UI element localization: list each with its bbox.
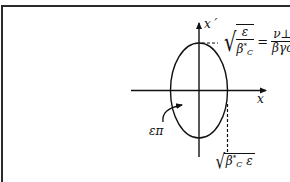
equals-sign: = (257, 35, 268, 48)
sqrt-radicand: β*C ε (224, 153, 255, 169)
beta-subscript: C (236, 160, 242, 169)
max-angle-formula: √ ε β*C = ν⊥ βγc (222, 24, 290, 59)
rhs-denominator: βγc (271, 42, 290, 55)
area-arrow (163, 105, 182, 122)
beta-symbol: β (226, 154, 233, 168)
sqrt-fraction: ε β*C (236, 24, 255, 59)
beta-subscript: C (247, 48, 253, 57)
rhs-fraction: ν⊥ βγc (271, 28, 290, 55)
x-axis-label: x (257, 93, 264, 105)
x-prime-axis-label: x ′ (204, 18, 217, 30)
sqrt-denominator: β*C (236, 40, 255, 59)
sqrt-numerator: ε (236, 26, 255, 40)
epsilon-symbol: ε (246, 154, 252, 168)
max-position-formula: √ β*C ε (214, 151, 255, 171)
sqrt-symbol: √ (224, 29, 236, 55)
ellipse-area-label: επ (149, 125, 163, 137)
sqrt-symbol: √ (216, 151, 226, 171)
beta-symbol: β (237, 42, 244, 56)
rhs-numerator: ν⊥ (271, 28, 290, 42)
